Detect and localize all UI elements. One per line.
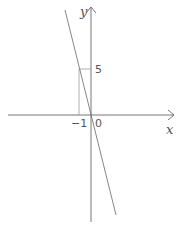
origin-label: 0 [95,117,102,130]
x-axis-label: x [166,122,174,137]
graph-line [65,10,116,215]
y-tick-label: 5 [95,63,102,76]
graph: y x 5 −1 0 [0,0,183,231]
x-tick-label: −1 [71,117,87,130]
y-axis-label: y [79,4,88,19]
